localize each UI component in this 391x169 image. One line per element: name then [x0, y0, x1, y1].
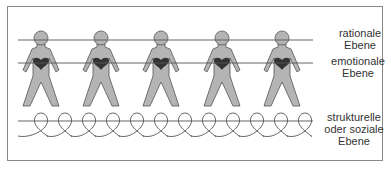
person-head [94, 31, 108, 45]
person-head [34, 31, 48, 45]
person-head [275, 31, 289, 45]
person-head [215, 31, 229, 45]
label-rational-level: rationale Ebene [330, 27, 390, 51]
person-figure [23, 44, 59, 106]
person-figure [264, 44, 300, 106]
person-figure [204, 44, 240, 106]
social-network-loops [18, 113, 312, 137]
label-emotional-level: emotionale Ebene [326, 55, 390, 79]
person-figure [83, 44, 119, 106]
person-head [154, 31, 168, 45]
person-figure [143, 44, 179, 106]
label-structural-level: strukturelle oder soziale Ebene [318, 111, 390, 147]
